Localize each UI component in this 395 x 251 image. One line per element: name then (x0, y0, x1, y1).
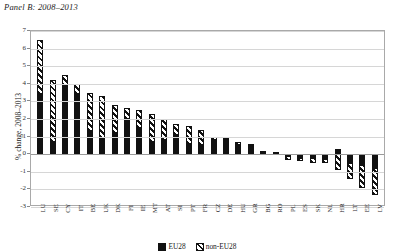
bar-stack[interactable] (124, 108, 130, 154)
bar-group[interactable] (158, 31, 170, 205)
bar-group[interactable] (369, 31, 381, 205)
gridline (31, 172, 384, 173)
x-axis-label-slot: HR (332, 207, 344, 241)
x-axis-label-slot: LU (33, 207, 45, 241)
x-axis-label-slot: SI (170, 207, 182, 241)
x-axis-label-slot: RO (270, 207, 282, 241)
x-axis-label-slot: FI (120, 207, 132, 241)
bar-stack[interactable] (223, 138, 229, 154)
bar-segment-eu28 (99, 138, 105, 154)
bar-group[interactable] (195, 31, 207, 205)
bar-segment-eu28 (372, 154, 378, 168)
y-axis-tick-label: 6 (23, 44, 27, 52)
bar-group[interactable] (245, 31, 257, 205)
bar-stack[interactable] (186, 126, 192, 154)
bar-stack[interactable] (198, 130, 204, 155)
bar-group[interactable] (307, 31, 319, 205)
y-axis-tick-label: 2 (23, 114, 27, 122)
bar-group[interactable] (183, 31, 195, 205)
x-axis-label-slot: GR (245, 207, 257, 241)
bar-group[interactable] (257, 31, 269, 205)
bar-segment-eu28 (248, 146, 254, 155)
bar-stack[interactable] (211, 137, 217, 155)
bar-group[interactable] (344, 31, 356, 205)
x-axis-label-slot: SE (45, 207, 57, 241)
bar-segment-eu28 (186, 144, 192, 155)
x-axis-tick-label: LV (376, 204, 383, 212)
gridline (31, 84, 384, 85)
bar-stack[interactable] (50, 80, 56, 154)
bar-group[interactable] (356, 31, 368, 205)
bar-group[interactable] (34, 31, 46, 205)
bar-segment-non-eu28 (322, 159, 328, 163)
bar-segment-non-eu28 (297, 158, 303, 162)
bar-group[interactable] (170, 31, 182, 205)
x-axis-label-slot: CY (58, 207, 70, 241)
bar-group[interactable] (59, 31, 71, 205)
bar-stack[interactable] (335, 149, 341, 170)
bar-stack[interactable] (322, 154, 328, 163)
y-axis-tick-label: 5 (23, 61, 27, 69)
chart-container: % change, 2008–2013 76543210-1-2-3 LUSEC… (0, 14, 395, 248)
gridline (31, 137, 384, 138)
x-axis-label-slot: LV (370, 207, 382, 241)
bar-stack[interactable] (136, 110, 142, 154)
x-axis-label-slot: CZ (208, 207, 220, 241)
legend-item-eu28: EU28 (158, 242, 185, 251)
bar-stack[interactable] (297, 154, 303, 161)
bar-group[interactable] (294, 31, 306, 205)
bar-stack[interactable] (99, 96, 105, 154)
bar-group[interactable] (71, 31, 83, 205)
bar-group[interactable] (84, 31, 96, 205)
bar-group[interactable] (133, 31, 145, 205)
x-axis-label-slot: DE (220, 207, 232, 241)
y-axis-tick-label: 3 (23, 96, 27, 104)
bar-group[interactable] (319, 31, 331, 205)
bar-stack[interactable] (248, 144, 254, 155)
gridline (31, 31, 384, 32)
bar-stack[interactable] (173, 124, 179, 154)
bar-group[interactable] (96, 31, 108, 205)
bar-stack[interactable] (112, 105, 118, 154)
bar-segment-eu28 (136, 128, 142, 154)
x-axis-label-slot: HU (233, 207, 245, 241)
bar-segment-eu28 (223, 140, 229, 154)
bar-stack[interactable] (347, 154, 353, 179)
legend-label-eu28: EU28 (168, 242, 185, 251)
bar-stack[interactable] (62, 75, 68, 154)
bar-group[interactable] (146, 31, 158, 205)
bar-segment-eu28 (87, 131, 93, 154)
bar-segment-non-eu28 (335, 154, 341, 170)
bar-segment-eu28 (161, 140, 167, 154)
bar-group[interactable] (46, 31, 58, 205)
bar-segment-non-eu28 (124, 108, 130, 119)
bar-group[interactable] (121, 31, 133, 205)
y-axis-tick-label: 4 (23, 79, 27, 87)
x-axis-label-slot: IT (70, 207, 82, 241)
x-axis-label-slot: IE (133, 207, 145, 241)
y-axis-tick-label: -3 (20, 202, 26, 210)
bar-group[interactable] (232, 31, 244, 205)
y-axis-tick-label: 7 (23, 26, 27, 34)
bar-group[interactable] (220, 31, 232, 205)
bar-segment-eu28 (74, 94, 80, 154)
bar-segment-eu28 (37, 94, 43, 154)
gridline (31, 189, 384, 190)
bar-group[interactable] (282, 31, 294, 205)
x-axis-label-slot: LT (345, 207, 357, 241)
bar-segment-non-eu28 (99, 96, 105, 138)
bar-segment-eu28 (149, 142, 155, 154)
bar-group[interactable] (269, 31, 281, 205)
bar-group[interactable] (331, 31, 343, 205)
bar-series-group (31, 31, 384, 205)
bar-group[interactable] (108, 31, 120, 205)
bar-stack[interactable] (235, 142, 241, 154)
y-axis-title: % change, 2008–2013 (14, 57, 23, 197)
x-axis-labels: LUSECYITBEUKDKFIIEMTATSIPTFRCZDEHUGRBGRO… (30, 207, 385, 241)
bar-stack[interactable] (310, 154, 316, 163)
x-axis-label-slot: UK (95, 207, 107, 241)
gridline (31, 119, 384, 120)
bar-segment-non-eu28 (310, 158, 316, 163)
bar-group[interactable] (207, 31, 219, 205)
bar-segment-eu28 (359, 154, 365, 165)
